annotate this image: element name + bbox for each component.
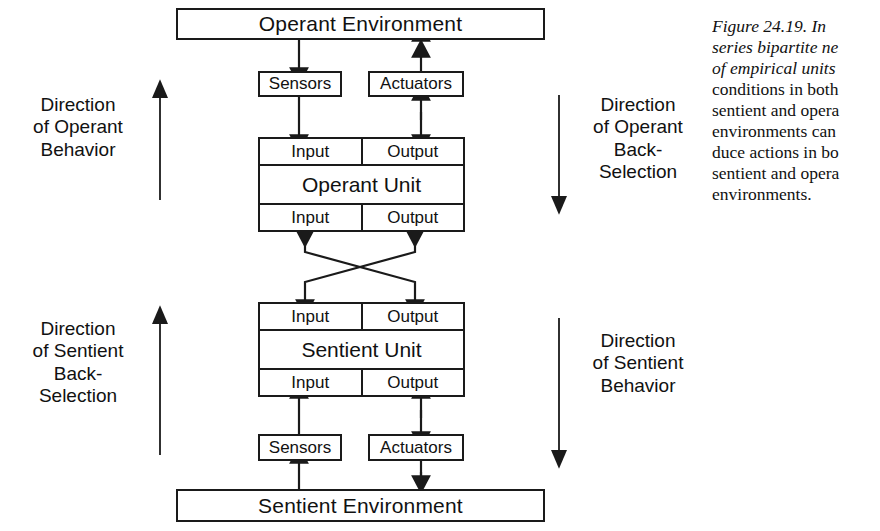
operant-environment-label: Operant Environment (259, 12, 462, 36)
label-direction-operant-behavior: Direction of Operant Behavior (14, 94, 142, 161)
operant-actuators-label: Actuators (380, 74, 452, 94)
operant-unit-bottom-input: Input (260, 205, 363, 230)
sentient-sensors-label: Sensors (269, 438, 331, 458)
operant-unit-top-output: Output (363, 139, 464, 164)
caption-line: sentient and opera (712, 163, 880, 184)
label-direction-operant-back-selection: Direction of Operant Back- Selection (578, 94, 698, 184)
sentient-unit-top-input: Input (260, 304, 363, 329)
caption-line: conditions in both (712, 79, 880, 100)
sentient-unit-title: Sentient Unit (260, 331, 463, 368)
caption-line: series bipartite ne (712, 37, 880, 58)
figure-container: Operant Environment Sensors Actuators In… (0, 0, 880, 531)
sentient-unit-bottom-io-row: Input Output (260, 368, 463, 395)
caption-line: of empirical units (712, 58, 880, 79)
caption-line: Figure 24.19. In (712, 16, 880, 37)
operant-unit-box: Input Output Operant Unit Input Output (258, 137, 465, 232)
operant-unit-bottom-output: Output (363, 205, 464, 230)
operant-unit-top-io-row: Input Output (260, 139, 463, 166)
caption-line: duce actions in bo (712, 142, 880, 163)
operant-sensors-label: Sensors (269, 74, 331, 94)
caption-line: sentient and opera (712, 100, 880, 121)
sentient-unit-bottom-output: Output (363, 370, 464, 395)
label-direction-sentient-back-selection: Direction of Sentient Back- Selection (14, 318, 142, 408)
figure-caption: Figure 24.19. In series bipartite ne of … (712, 16, 880, 266)
crossover-path-a (305, 232, 415, 302)
sentient-actuators-box: Actuators (368, 434, 464, 461)
crossover-path-b (305, 232, 415, 302)
sentient-unit-bottom-input: Input (260, 370, 363, 395)
caption-line: environments can (712, 121, 880, 142)
operant-unit-title: Operant Unit (260, 166, 463, 203)
sentient-environment-box: Sentient Environment (176, 489, 545, 522)
sentient-sensors-box: Sensors (258, 434, 342, 461)
sentient-unit-top-output: Output (363, 304, 464, 329)
operant-environment-box: Operant Environment (176, 8, 545, 40)
sentient-actuators-label: Actuators (380, 438, 452, 458)
operant-sensors-box: Sensors (258, 71, 342, 97)
sentient-unit-box: Input Output Sentient Unit Input Output (258, 302, 465, 397)
label-direction-sentient-behavior: Direction of Sentient Behavior (578, 330, 698, 397)
operant-unit-bottom-io-row: Input Output (260, 203, 463, 230)
operant-actuators-box: Actuators (368, 71, 464, 97)
sentient-environment-label: Sentient Environment (258, 494, 463, 518)
operant-unit-top-input: Input (260, 139, 363, 164)
sentient-unit-top-io-row: Input Output (260, 304, 463, 331)
caption-line: environments. (712, 184, 880, 205)
